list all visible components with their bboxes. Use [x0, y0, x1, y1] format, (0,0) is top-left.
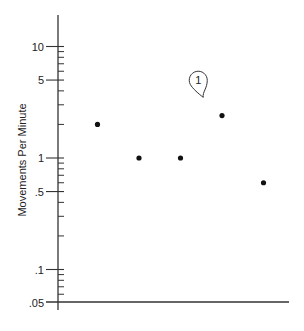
data-point: [95, 122, 100, 127]
y-tick-label: 10: [32, 41, 44, 53]
y-tick-label: 1: [38, 152, 44, 164]
y-tick-label: 5: [38, 74, 44, 86]
data-points: [95, 113, 266, 185]
y-tick-label: .5: [35, 186, 44, 198]
data-point: [178, 155, 183, 160]
callout-label: 1: [195, 74, 201, 86]
data-point: [261, 180, 266, 185]
callout: 1: [189, 71, 207, 97]
y-tick-label: .1: [35, 264, 44, 276]
y-axis: 1051.5.1.05: [29, 15, 64, 310]
y-axis-title: Movements Per Minute: [16, 103, 28, 216]
data-point: [219, 113, 224, 118]
chart: 1051.5.1.05 Movements Per Minute 1: [0, 0, 304, 331]
annotations: 1: [189, 71, 207, 97]
y-tick-label: .05: [29, 297, 44, 309]
data-point: [136, 155, 141, 160]
